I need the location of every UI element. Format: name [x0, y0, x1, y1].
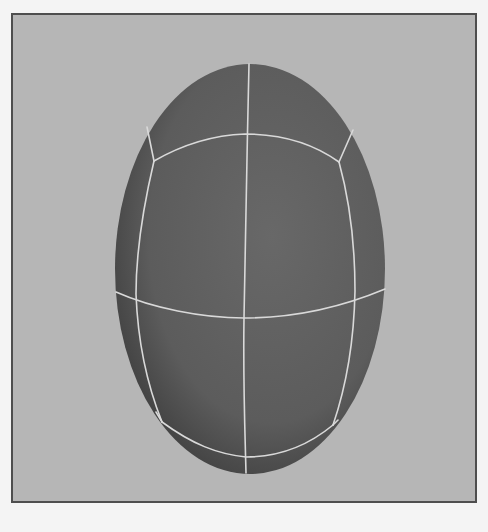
3d-viewport[interactable]	[11, 13, 477, 503]
ellipsoid-render	[13, 15, 475, 501]
